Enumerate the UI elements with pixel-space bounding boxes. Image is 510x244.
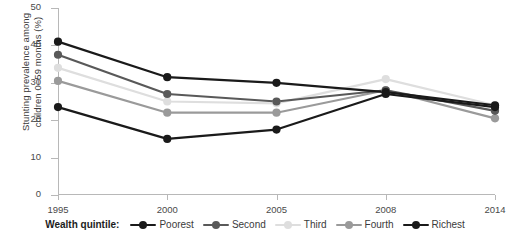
x-tick-label-2008: 2008 <box>375 204 396 215</box>
stunting-prevalence-line-chart: Stunting prevalence among children 0–59 … <box>0 0 510 244</box>
data-point-fourth-2005 <box>272 109 280 117</box>
data-point-richest-1995 <box>54 103 62 111</box>
x-tick-2008 <box>386 195 387 200</box>
data-point-richest-2014 <box>491 103 499 111</box>
legend-marker-icon-second <box>203 220 229 230</box>
data-point-second-2000 <box>163 90 171 98</box>
legend-marker-icon-richest <box>403 220 429 230</box>
legend-label-fourth: Fourth <box>365 219 394 230</box>
legend-marker-icon-fourth <box>336 220 362 230</box>
data-point-poorest-1995 <box>54 38 62 46</box>
y-tick-label-30: 30 <box>30 76 41 87</box>
legend-label-richest: Richest <box>432 219 465 230</box>
legend-marker-icon-poorest <box>130 220 156 230</box>
data-point-fourth-1995 <box>54 77 62 85</box>
y-tick-10: 10 <box>51 158 58 159</box>
legend-label-poorest: Poorest <box>159 219 193 230</box>
data-point-second-2005 <box>272 97 280 105</box>
legend-item-fourth[interactable]: Fourth <box>336 219 394 230</box>
data-point-richest-2005 <box>272 125 280 133</box>
legend-title: Wealth quintile: <box>45 219 119 230</box>
y-tick-label-0: 0 <box>36 188 41 199</box>
legend-item-poorest[interactable]: Poorest <box>130 219 193 230</box>
x-tick-1995 <box>58 195 59 200</box>
data-point-third-1995 <box>54 64 62 72</box>
data-point-fourth-2000 <box>163 109 171 117</box>
x-tick-2014 <box>495 195 496 200</box>
legend-label-third: Third <box>304 219 327 230</box>
series-plot <box>58 8 495 195</box>
data-point-fourth-2014 <box>491 114 499 122</box>
x-tick-label-1995: 1995 <box>47 204 68 215</box>
legend-item-richest[interactable]: Richest <box>403 219 465 230</box>
data-point-third-2000 <box>163 97 171 105</box>
y-tick-20: 20 <box>51 120 58 121</box>
x-tick-label-2014: 2014 <box>484 204 505 215</box>
y-tick-label-20: 20 <box>30 113 41 124</box>
x-tick-2000 <box>167 195 168 200</box>
data-point-poorest-2005 <box>272 79 280 87</box>
legend-label-second: Second <box>232 219 266 230</box>
legend-item-second[interactable]: Second <box>203 219 266 230</box>
x-tick-2005 <box>277 195 278 200</box>
data-point-poorest-2000 <box>163 73 171 81</box>
x-tick-label-2000: 2000 <box>157 204 178 215</box>
y-tick-label-50: 50 <box>30 1 41 12</box>
y-tick-50: 50 <box>51 8 58 9</box>
data-point-third-2008 <box>382 75 390 83</box>
data-point-richest-2008 <box>382 90 390 98</box>
data-point-second-1995 <box>54 51 62 59</box>
plot-area: 01020304050 19952000200520082014 <box>58 8 495 195</box>
y-tick-label-40: 40 <box>30 38 41 49</box>
chart-legend: Wealth quintile: PoorestSecondThirdFourt… <box>0 219 510 230</box>
y-tick-0: 0 <box>51 195 58 196</box>
data-point-richest-2000 <box>163 135 171 143</box>
series-line-poorest <box>58 42 495 106</box>
legend-marker-icon-third <box>275 220 301 230</box>
y-tick-label-10: 10 <box>30 151 41 162</box>
x-tick-label-2005: 2005 <box>266 204 287 215</box>
legend-item-third[interactable]: Third <box>275 219 327 230</box>
